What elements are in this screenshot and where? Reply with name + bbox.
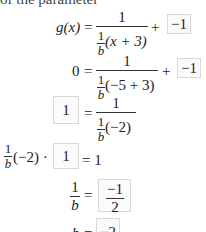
step4-coef: 1 b <box>4 143 12 170</box>
coef-den: b <box>4 158 12 170</box>
step5-lhs-fraction: 1 b <box>70 180 80 213</box>
step2-numerator: 1 <box>96 54 158 69</box>
step1-numerator: 1 <box>96 10 148 25</box>
step4-rest: (−2) · <box>13 150 48 165</box>
step3-coef: 1 b <box>97 116 105 143</box>
step3-numerator: 1 <box>96 96 136 111</box>
answer-box-3[interactable]: 1 <box>53 96 79 124</box>
coef-den: b <box>97 131 105 143</box>
coef-num: 1 <box>97 74 105 86</box>
step6-eq: = <box>84 226 92 232</box>
step2-fraction: 1 <box>96 54 158 72</box>
step3-eq: = <box>84 106 92 121</box>
step4-rhs: = 1 <box>82 153 102 168</box>
step6-lhs: b <box>72 226 80 232</box>
step1-eq: = <box>84 20 92 35</box>
fraction-bar <box>96 26 148 27</box>
box-num: −1 <box>106 182 124 197</box>
coef-num: 1 <box>97 116 105 128</box>
header-fragment: of the parameter <box>0 0 98 8</box>
coef-num: 1 <box>97 30 105 42</box>
step5-eq: = <box>84 188 92 203</box>
step1-coef: 1 b <box>97 30 105 57</box>
answer-box-5[interactable]: −1 2 <box>98 179 131 212</box>
step1-lhs: g(x) <box>56 20 80 35</box>
answer-box-1[interactable]: −1 <box>167 14 191 34</box>
box-fraction: −1 2 <box>106 182 124 215</box>
answer-box-2[interactable]: −1 <box>177 58 201 78</box>
lhs-den: b <box>70 198 80 213</box>
box-den: 2 <box>106 200 124 215</box>
coef-num: 1 <box>4 143 12 155</box>
step1-fraction: 1 <box>96 10 148 28</box>
step2-lhs: 0 <box>72 64 80 79</box>
fraction-bar <box>96 112 136 113</box>
step3-den-rest: (−2) <box>105 120 131 135</box>
fraction-bar <box>96 70 158 71</box>
answer-box-4[interactable]: 1 <box>53 143 79 169</box>
step3-fraction: 1 <box>96 96 136 114</box>
step2-eq: = <box>84 64 92 79</box>
step2-den-rest: (−5 + 3) <box>105 78 154 93</box>
step1-den-rest: (x + 3) <box>105 34 147 49</box>
step2-plus: + <box>162 64 170 79</box>
answer-box-6[interactable]: −2 <box>96 218 120 232</box>
step1-plus: + <box>151 20 159 35</box>
lhs-num: 1 <box>70 180 80 195</box>
